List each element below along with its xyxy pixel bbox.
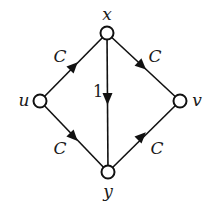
arrow-down-icon — [103, 93, 113, 105]
node-label-u: u — [19, 90, 30, 110]
edge-label-y-v: C — [150, 138, 163, 158]
node-label-y: y — [102, 181, 113, 201]
edge-label-x-v: C — [148, 46, 161, 66]
node-v — [174, 95, 187, 108]
flow-network-diagram: x u v y C C C C 1 — [0, 0, 212, 206]
node-y — [102, 166, 115, 179]
node-u — [34, 95, 47, 108]
arrow-up-right-icon — [134, 129, 149, 144]
node-x — [101, 27, 114, 40]
node-label-v: v — [192, 90, 202, 110]
node-label-x: x — [102, 4, 112, 24]
edge-label-x-y: 1 — [93, 82, 103, 101]
edge-label-u-y: C — [53, 138, 66, 158]
edge-label-u-x: C — [53, 46, 66, 66]
